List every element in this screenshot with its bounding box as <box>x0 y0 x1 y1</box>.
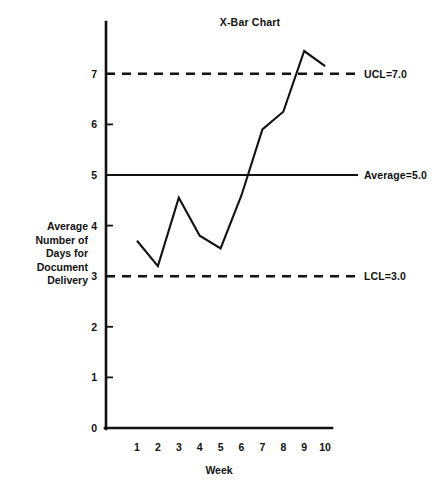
y-tick-label: 6 <box>91 118 97 130</box>
x-tick-label: 1 <box>134 441 140 453</box>
control-limit-lines: UCL=7.0Average=5.0LCL=3.0 <box>106 68 427 282</box>
y-axis-title-line: Average <box>47 220 88 232</box>
y-tick-label: 1 <box>91 371 97 383</box>
y-tick-label: 4 <box>91 220 97 232</box>
chart-canvas: X-Bar Chart AverageNumber ofDays forDocu… <box>0 0 444 488</box>
x-axis-title: Week <box>205 464 232 476</box>
y-tick-label: 7 <box>91 68 97 80</box>
y-axis-ticks: 01234567 <box>91 68 113 434</box>
y-axis-title: AverageNumber ofDays forDocumentDelivery <box>36 220 89 286</box>
x-tick-label: 9 <box>301 441 307 453</box>
data-series-line <box>137 51 325 266</box>
x-tick-label: 3 <box>176 441 182 453</box>
y-axis-title-line: Delivery <box>47 274 88 286</box>
control-limit-label-average: Average=5.0 <box>364 169 427 181</box>
x-tick-label: 6 <box>239 441 245 453</box>
x-tick-label: 8 <box>280 441 286 453</box>
y-axis-title-line: Document <box>37 261 89 273</box>
y-axis-title-line: Days for <box>46 247 88 259</box>
x-tick-label: 10 <box>319 441 331 453</box>
y-tick-label: 3 <box>91 270 97 282</box>
control-limit-label-ucl: UCL=7.0 <box>364 68 407 80</box>
x-tick-label: 5 <box>218 441 224 453</box>
x-tick-label: 7 <box>259 441 265 453</box>
x-tick-label: 2 <box>155 441 161 453</box>
x-tick-label: 4 <box>197 441 203 453</box>
control-limit-label-lcl: LCL=3.0 <box>364 270 406 282</box>
x-bar-control-chart: X-Bar Chart AverageNumber ofDays forDocu… <box>0 0 444 488</box>
y-tick-label: 5 <box>91 169 97 181</box>
y-tick-label: 2 <box>91 321 97 333</box>
chart-title: X-Bar Chart <box>220 16 281 28</box>
y-axis-title-line: Number of <box>36 234 89 246</box>
y-tick-label: 0 <box>91 422 97 434</box>
x-axis-ticks: 12345678910 <box>134 441 331 453</box>
